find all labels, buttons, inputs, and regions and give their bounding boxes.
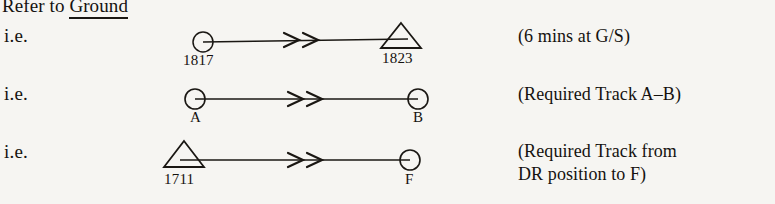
scanned-page: Refer to Ground i.e. 1817 1823 (6 mins a… [0,0,775,204]
track-diagram: 1711 F [160,134,470,200]
start-node-label: 1817 [183,52,214,68]
ie-label: i.e. [4,26,28,46]
track-diagram-svg [160,78,470,132]
dr-position-triangle-icon [381,23,421,48]
diagram-row: i.e. A B (Required Track A–B) [0,78,775,132]
end-node-label: F [405,171,414,187]
diagram-row: i.e. 1711 F (Required Track from DR posi… [0,134,775,200]
row-note: (6 mins at G/S) [518,25,630,48]
dr-position-triangle-icon [164,141,204,167]
start-node-label: 1711 [164,171,194,187]
row-note: (Required Track A–B) [518,83,681,106]
track-diagram: 1817 1823 [160,20,470,76]
page-heading: Refer to Ground [2,0,128,16]
ie-label: i.e. [4,142,28,162]
track-diagram-svg [160,134,470,200]
diagram-row: i.e. 1817 1823 (6 mins at G/S) [0,20,775,76]
start-node-label: A [190,109,201,125]
track-diagram: A B [160,78,470,132]
end-node-label: 1823 [382,50,413,66]
end-node-label: B [413,109,423,125]
track-line [203,39,408,42]
row-note: (Required Track from DR position to F) [518,140,677,186]
ie-label: i.e. [4,84,28,104]
heading-underlined-word: Ground [69,0,128,19]
heading-prefix: Refer to [2,0,69,16]
